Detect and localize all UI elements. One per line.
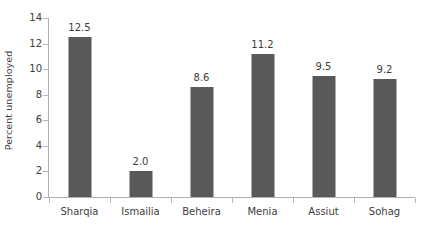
plot-area: 12.52.08.611.29.59.2 — [49, 18, 415, 197]
bar-group[interactable]: 12.5 — [49, 18, 110, 197]
bar[interactable] — [190, 87, 213, 197]
x-axis-category-label: Sharqia — [60, 206, 98, 218]
y-axis-title: Percent unemployed — [0, 0, 18, 200]
bar[interactable] — [312, 76, 335, 197]
bar[interactable] — [373, 79, 396, 197]
x-axis-tick-mark — [171, 198, 172, 203]
y-axis-tick-label: 10 — [22, 64, 42, 74]
x-axis-category-label: Sohag — [369, 206, 400, 218]
bar[interactable] — [68, 37, 91, 197]
x-axis-tick-mark — [415, 198, 416, 203]
bar-group[interactable]: 9.5 — [293, 18, 354, 197]
y-axis-tick-label: 8 — [22, 90, 42, 100]
y-axis-title-text: Percent unemployed — [4, 50, 15, 150]
y-axis-tick-label: 6 — [22, 115, 42, 125]
y-axis-tick-label: 2 — [22, 166, 42, 176]
bar-group[interactable]: 2.0 — [110, 18, 171, 197]
bar[interactable] — [251, 54, 274, 197]
bar-group[interactable]: 11.2 — [232, 18, 293, 197]
bar-value-label: 12.5 — [68, 23, 90, 33]
x-axis-tick-mark — [293, 198, 294, 203]
x-axis-category-label: Beheira — [182, 206, 221, 218]
bar-group[interactable]: 9.2 — [354, 18, 415, 197]
bar-value-label: 8.6 — [194, 73, 210, 83]
x-axis-category-label: Menia — [247, 206, 277, 218]
bar-value-label: 2.0 — [133, 157, 149, 167]
x-axis-category-label: Assiut — [308, 206, 338, 218]
x-axis-tick-mark — [49, 198, 50, 203]
x-axis-category-label: Ismailia — [121, 206, 160, 218]
bar-value-label: 9.2 — [377, 65, 393, 75]
bar-value-label: 11.2 — [251, 40, 273, 50]
x-axis-category-labels: SharqiaIsmailiaBeheiraMeniaAssiutSohag — [49, 206, 415, 226]
x-axis-tick-marks — [0, 198, 424, 203]
x-axis-tick-mark — [110, 198, 111, 203]
bar-chart: Percent unemployed 02468101214 12.52.08.… — [0, 0, 424, 236]
x-axis-tick-mark — [232, 198, 233, 203]
bar[interactable] — [129, 171, 152, 197]
bar-value-label: 9.5 — [316, 62, 332, 72]
y-axis-tick-label: 4 — [22, 141, 42, 151]
y-axis-tick-label: 14 — [22, 13, 42, 23]
x-axis-tick-mark — [354, 198, 355, 203]
y-axis-tick-label: 12 — [22, 39, 42, 49]
bar-group[interactable]: 8.6 — [171, 18, 232, 197]
